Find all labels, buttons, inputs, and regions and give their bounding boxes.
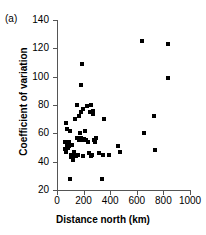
data-point: [153, 148, 157, 152]
y-tick-label-120: 120: [19, 43, 49, 53]
data-point: [100, 177, 104, 181]
y-tick-label-100: 100: [19, 72, 49, 82]
y-tick-label-40: 40: [19, 157, 49, 167]
data-point: [152, 114, 156, 118]
y-tick-40: [53, 162, 57, 163]
y-tick-80: [53, 105, 57, 106]
data-point: [68, 177, 72, 181]
data-point: [107, 153, 111, 157]
data-point: [75, 103, 79, 107]
data-point: [80, 62, 84, 66]
data-point: [166, 76, 170, 80]
data-point: [70, 143, 74, 147]
data-point: [102, 117, 106, 121]
y-tick-100: [53, 77, 57, 78]
x-tick-label-600: 600: [122, 196, 152, 206]
data-point: [90, 153, 94, 157]
data-point: [79, 83, 83, 87]
data-point: [76, 153, 80, 157]
x-axis-line: [57, 190, 191, 191]
x-tick-label-200: 200: [69, 196, 99, 206]
data-point: [86, 140, 90, 144]
data-point: [85, 104, 89, 108]
x-tick-label-400: 400: [95, 196, 125, 206]
data-point: [89, 103, 93, 107]
y-tick-120: [53, 48, 57, 49]
data-point: [71, 158, 75, 162]
data-point: [166, 42, 170, 46]
y-tick-label-20: 20: [19, 185, 49, 195]
data-point: [64, 150, 68, 154]
data-point: [140, 39, 144, 43]
data-point: [118, 150, 122, 154]
panel-label: (a): [5, 13, 17, 25]
data-point: [68, 129, 72, 133]
x-axis-title: Distance north (km): [0, 214, 206, 226]
data-point: [101, 153, 105, 157]
plot-area: 20406080100120140 02004006008001000: [57, 20, 190, 190]
y-tick-label-140: 140: [19, 15, 49, 25]
y-axis-line: [57, 20, 58, 191]
data-point: [142, 131, 146, 135]
data-point: [116, 144, 120, 148]
x-tick-label-0: 0: [42, 196, 72, 206]
y-tick-label-80: 80: [19, 100, 49, 110]
data-point: [93, 140, 97, 144]
data-point: [81, 154, 85, 158]
data-point: [77, 114, 81, 118]
y-tick-label-60: 60: [19, 128, 49, 138]
x-tick-label-1000: 1000: [175, 196, 205, 206]
x-tick-label-800: 800: [148, 196, 178, 206]
data-point: [83, 129, 87, 133]
y-tick-140: [53, 20, 57, 21]
y-tick-60: [53, 133, 57, 134]
data-point: [64, 121, 68, 125]
scatter-plot-figure: (a) Coefficient of variation Distance no…: [0, 0, 206, 235]
data-point: [94, 136, 98, 140]
data-point: [91, 109, 95, 113]
